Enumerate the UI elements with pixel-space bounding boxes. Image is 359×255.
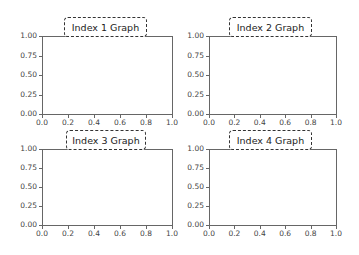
y-tick-label: 1.00 [7,145,37,153]
y-tick-label: 0.00 [7,110,37,118]
y-tick-mark [39,36,42,37]
x-tick-label: 0.6 [275,230,295,238]
y-tick-label: 0.25 [7,202,37,210]
x-tick-label: 0.8 [136,230,156,238]
y-tick-mark [39,168,42,169]
y-tick-label: 0.00 [174,221,204,229]
y-tick-label: 0.50 [174,183,204,191]
y-tick-mark [206,95,209,96]
x-tick-label: 0.0 [32,230,52,238]
y-tick-label: 0.25 [7,91,37,99]
axes-panel-2 [209,36,337,115]
x-tick-label: 0.2 [224,230,244,238]
y-tick-mark [206,56,209,57]
y-tick-label: 1.00 [174,32,204,40]
x-tick-label: 0.0 [32,119,52,127]
y-tick-mark [206,168,209,169]
x-tick-label: 0.4 [84,119,104,127]
x-tick-label: 0.2 [58,119,78,127]
x-tick-label: 0.4 [250,230,270,238]
y-tick-mark [39,187,42,188]
y-tick-mark [206,149,209,150]
x-tick-label: 0.6 [110,230,130,238]
x-tick-label: 0.4 [84,230,104,238]
y-tick-mark [39,206,42,207]
y-tick-label: 0.50 [7,183,37,191]
x-tick-label: 1.0 [162,119,182,127]
x-tick-label: 0.6 [110,119,130,127]
chart-title-1: Index 1 Graph [64,17,147,37]
y-tick-label: 0.75 [7,52,37,60]
y-tick-label: 0.50 [174,71,204,79]
y-tick-mark [39,56,42,57]
x-tick-label: 0.0 [199,119,219,127]
x-tick-label: 0.8 [136,119,156,127]
x-tick-label: 0.6 [275,119,295,127]
y-tick-label: 0.75 [7,164,37,172]
y-tick-mark [39,75,42,76]
y-tick-mark [206,206,209,207]
y-tick-label: 0.25 [174,91,204,99]
x-tick-label: 0.8 [301,119,321,127]
axes-panel-1 [42,36,173,115]
y-tick-mark [206,187,209,188]
chart-title-4: Index 4 Graph [229,130,312,150]
chart-title-2: Index 2 Graph [229,17,312,37]
y-tick-label: 0.00 [174,110,204,118]
y-tick-label: 1.00 [174,145,204,153]
y-tick-label: 0.50 [7,71,37,79]
y-tick-label: 0.75 [174,164,204,172]
y-tick-mark [206,75,209,76]
chart-title-3: Index 3 Graph [66,130,146,150]
y-tick-label: 0.25 [174,202,204,210]
x-tick-label: 1.0 [326,119,346,127]
y-tick-mark [39,95,42,96]
x-tick-label: 0.2 [224,119,244,127]
x-tick-label: 0.4 [250,119,270,127]
x-tick-label: 0.2 [58,230,78,238]
y-tick-mark [39,149,42,150]
y-tick-label: 0.75 [174,52,204,60]
y-tick-label: 0.00 [7,221,37,229]
x-tick-label: 1.0 [162,230,182,238]
x-tick-label: 1.0 [326,230,346,238]
y-tick-mark [206,36,209,37]
axes-panel-3 [42,149,173,226]
x-tick-label: 0.0 [199,230,219,238]
x-tick-label: 0.8 [301,230,321,238]
axes-panel-4 [209,149,337,226]
y-tick-label: 1.00 [7,32,37,40]
